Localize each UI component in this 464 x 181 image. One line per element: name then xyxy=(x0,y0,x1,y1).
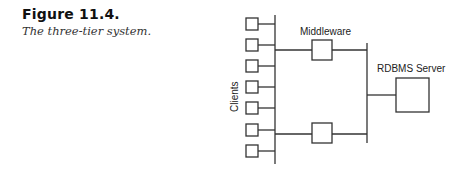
rdbms-server-node xyxy=(396,78,429,112)
client-node xyxy=(246,81,275,93)
client-node xyxy=(246,60,275,72)
middleware-node xyxy=(312,40,332,60)
client-node xyxy=(246,39,275,51)
middleware-label: Middleware xyxy=(300,26,352,37)
client-node xyxy=(246,18,275,30)
clients-label: Clients xyxy=(229,81,240,112)
three-tier-diagram: Middleware RDBMS Server Clients xyxy=(0,0,464,181)
client-node xyxy=(246,102,275,114)
rdbms-server-label: RDBMS Server xyxy=(377,63,446,74)
client-node xyxy=(246,145,275,157)
client-node xyxy=(246,124,275,136)
middleware-node xyxy=(312,123,332,143)
